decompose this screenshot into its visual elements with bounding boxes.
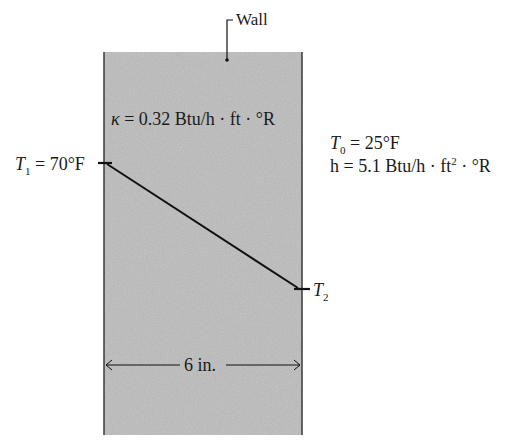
- thickness-label: 6 in.: [184, 356, 216, 374]
- t0-value: = 25°F: [346, 133, 400, 153]
- ambient-temperature-label: T0 = 25°F: [330, 134, 400, 152]
- h-prefix: h = 5.1 Btu/h · ft: [330, 156, 451, 176]
- t2-subscript: 2: [323, 291, 329, 303]
- conductivity-label: κ = 0.32 Btu/h · ft · °R: [111, 110, 275, 128]
- wall-leader-dot: [225, 58, 229, 62]
- kappa-symbol: κ: [111, 109, 120, 129]
- t1-symbol: T: [15, 154, 25, 174]
- t2-symbol: T: [313, 280, 323, 300]
- t1-value: = 70°F: [31, 154, 85, 174]
- t0-symbol: T: [330, 133, 340, 153]
- wall-label: Wall: [236, 11, 268, 28]
- h-suffix: · °R: [457, 156, 491, 176]
- convection-coefficient-label: h = 5.1 Btu/h · ft2 · °R: [330, 157, 491, 175]
- inner-temperature-label: T1 = 70°F: [15, 155, 85, 173]
- wall-label-text: Wall: [236, 10, 268, 29]
- conductivity-value: = 0.32 Btu/h · ft · °R: [120, 109, 275, 129]
- thickness-value: 6 in.: [184, 355, 216, 375]
- wall-diagram: [0, 0, 521, 447]
- outer-temperature-label: T2: [313, 281, 329, 299]
